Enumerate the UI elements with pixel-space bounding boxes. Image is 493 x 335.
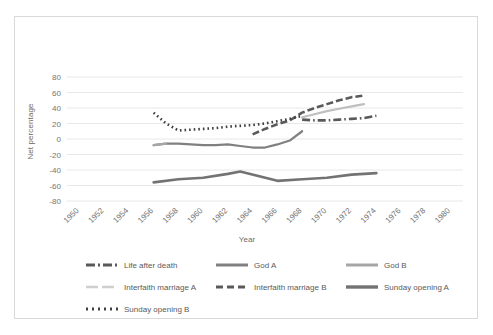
series-line [154,172,377,183]
legend-label: God A [254,261,276,270]
x-tick-label: 1958 [161,206,180,225]
x-tick-label: 1972 [334,206,353,225]
series-line [154,144,166,146]
dash-dot-line-icon [85,260,119,270]
legend-label: Life after death [124,261,177,270]
legend-item[interactable]: Interfaith marriage B [215,277,326,297]
x-tick-label: 1954 [111,206,130,225]
solid-line-icon [215,260,249,270]
chart-legend: Life after deathGod AGod B Interfaith ma… [15,255,479,317]
series-line [302,116,376,121]
legend-row: Life after deathGod AGod B [15,255,479,275]
legend-label: Sunday opening A [384,283,449,292]
x-axis-title: Year [15,235,479,244]
legend-item[interactable]: Interfaith marriage A [85,277,196,297]
x-tick-label: 1956 [136,206,155,225]
y-tick-label: -60 [49,182,61,191]
y-tick-label: 0 [57,135,62,144]
x-tick-label: 1978 [408,206,427,225]
x-tick-label: 1962 [210,206,229,225]
legend-item[interactable]: Life after death [85,255,177,275]
dashed-line-icon [215,282,249,292]
legend-label: Interfaith marriage A [124,283,196,292]
series-line [302,104,364,117]
legend-label: Interfaith marriage B [254,283,326,292]
y-tick-label: -40 [49,166,61,175]
y-tick-label: 80 [52,73,61,82]
y-tick-label: 60 [52,89,61,98]
x-tick-label: 1974 [359,206,378,225]
x-tick-label: 1950 [62,206,81,225]
y-axis-title: Net percentage [26,97,35,167]
legend-label: God B [384,261,407,270]
legend-item[interactable]: God B [345,255,407,275]
x-tick-label: 1970 [309,206,328,225]
legend-item[interactable]: God A [215,255,276,275]
x-tick-label: 1952 [87,206,106,225]
x-tick-label: 1980 [433,206,452,225]
x-tick-label: 1964 [235,206,254,225]
y-tick-label: -80 [49,197,61,206]
legend-item[interactable]: Sunday opening B [85,299,189,319]
legend-row: Interfaith marriage AInterfaith marriage… [15,277,479,297]
x-tick-label: 1960 [186,206,205,225]
solid-thick-line-icon [345,282,379,292]
y-tick-label: 20 [52,120,61,129]
solid-lightest-line-icon [85,282,119,292]
chart-card: 806040200-20-40-60-801950195219541956195… [14,16,478,319]
legend-label: Sunday opening B [124,305,189,314]
x-tick-label: 1976 [384,206,403,225]
series-line [154,113,303,131]
y-tick-label: -20 [49,151,61,160]
x-tick-label: 1968 [285,206,304,225]
solid-light-line-icon [345,260,379,270]
x-tick-label: 1966 [260,206,279,225]
legend-row: Sunday opening B [15,299,479,319]
legend-item[interactable]: Sunday opening A [345,277,449,297]
dotted-line-icon [85,304,119,314]
y-tick-label: 40 [52,104,61,113]
